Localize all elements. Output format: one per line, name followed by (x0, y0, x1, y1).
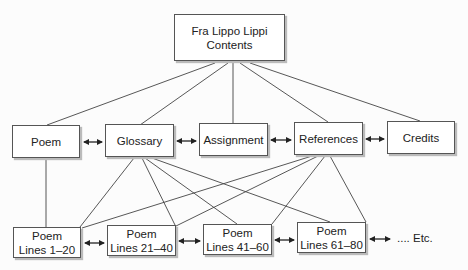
node-label: Assignment (203, 133, 263, 147)
node-title: Poem (206, 226, 269, 240)
node-range: Lines 61–80 (300, 238, 363, 252)
node-poem-lines-41-60[interactable]: PoemLines 41–60 (203, 224, 272, 255)
node-poem-lines-21-40[interactable]: PoemLines 21–40 (107, 225, 176, 256)
node-glossary[interactable]: Glossary (105, 124, 174, 157)
node-label: Glossary (117, 134, 162, 148)
node-poem-lines-1-20[interactable]: PoemLines 1–20 (13, 227, 81, 258)
root-title: Fra Lippo Lippi (191, 24, 267, 38)
node-range: Lines 1–20 (19, 243, 75, 257)
node-range: Lines 21–40 (110, 241, 173, 255)
node-label: Poem (31, 135, 61, 149)
node-label: Credits (403, 131, 439, 145)
node-credits[interactable]: Credits (387, 121, 455, 154)
node-range: Lines 41–60 (206, 240, 269, 254)
node-title: Poem (300, 224, 363, 238)
node-references[interactable]: References (294, 122, 363, 155)
node-poem-lines-61-80[interactable]: PoemLines 61–80 (297, 222, 366, 253)
node-poem[interactable]: Poem (12, 125, 80, 158)
root-subtitle: Contents (191, 38, 267, 52)
node-title: Poem (19, 229, 75, 243)
node-title: Poem (110, 227, 173, 241)
node-label: References (299, 132, 358, 146)
continuation-label: .... Etc. (397, 232, 433, 244)
root-node-contents[interactable]: Fra Lippo Lippi Contents (174, 14, 285, 61)
node-assignment[interactable]: Assignment (199, 123, 268, 156)
site-map-diagram: Fra Lippo Lippi Contents Poem Glossary A… (0, 0, 468, 270)
